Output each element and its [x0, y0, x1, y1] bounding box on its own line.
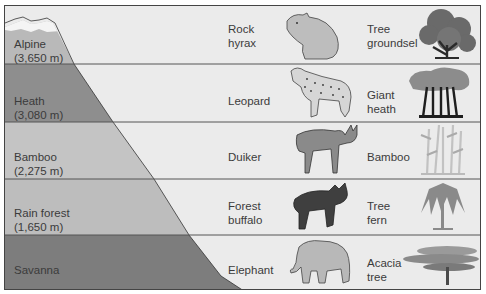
zone-label-bamboo: Bamboo(2,275 m): [14, 150, 63, 178]
zone-label-heath: Heath(3,080 m): [14, 94, 63, 122]
plant-label-tree-fern: Treefern: [367, 199, 390, 227]
acacia-tree-icon: [403, 246, 479, 285]
elephant-icon: [290, 241, 349, 283]
zone-label-alpine: Alpine(3,650 m): [14, 37, 63, 65]
zone-label-rain-forest: Rain forest(1,650 m): [14, 206, 70, 234]
plant-label-tree-groundsel: Treegroundsel: [367, 22, 418, 50]
plant-label-acacia-tree: Acaciatree: [367, 256, 402, 284]
bamboo-icon: [421, 125, 465, 175]
tree-groundsel-icon: [419, 9, 476, 59]
vegetation-zone-diagram: Alpine(3,650 m) Heath(3,080 m) Bamboo(2,…: [4, 5, 481, 290]
zone-label-savanna: Savanna: [14, 263, 59, 277]
leopard-icon: [291, 68, 351, 117]
animal-label-duiker: Duiker: [228, 150, 261, 164]
animal-label-leopard: Leopard: [228, 94, 270, 108]
tree-fern-icon: [421, 183, 465, 230]
plant-label-giant-heath: Giantheath: [367, 88, 396, 116]
animal-label-forest-buffalo: Forestbuffalo: [228, 199, 262, 227]
forest-buffalo-icon: [294, 183, 348, 229]
rock-hyrax-icon: [287, 13, 338, 59]
giant-heath-icon: [409, 67, 469, 118]
plant-label-bamboo: Bamboo: [367, 150, 410, 164]
animal-label-rock-hyrax: Rockhyrax: [228, 22, 256, 50]
duiker-icon: [296, 125, 357, 173]
animal-label-elephant: Elephant: [228, 263, 273, 277]
